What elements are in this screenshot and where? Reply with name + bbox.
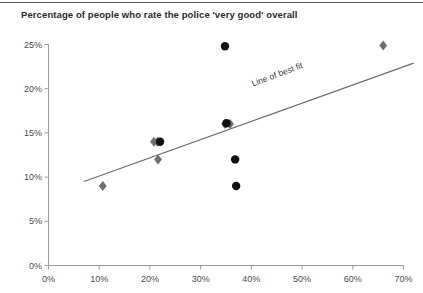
y-axis-tick-label: 5% <box>8 216 42 226</box>
trendline-layer <box>84 63 414 181</box>
line-of-best-fit <box>84 63 414 181</box>
chart-container: Percentage of people who rate the police… <box>0 0 423 293</box>
x-axis-tick-label: 20% <box>141 274 159 284</box>
axes-layer <box>45 45 404 270</box>
data-point-diamond <box>99 181 107 191</box>
y-axis-tick-label: 15% <box>8 128 42 138</box>
y-axis-tick-label: 10% <box>8 172 42 182</box>
data-point-circle <box>231 155 239 163</box>
x-axis-tick-label: 60% <box>344 274 362 284</box>
y-axis-tick-label: 20% <box>8 84 42 94</box>
data-point-circle <box>232 182 240 190</box>
x-axis-tick-label: 10% <box>90 274 108 284</box>
data-point-diamond <box>379 40 387 50</box>
data-point-circle <box>156 138 164 146</box>
x-axis-tick-label: 0% <box>42 274 55 284</box>
data-point-circle <box>221 42 229 50</box>
x-axis-tick-label: 70% <box>394 274 412 284</box>
plot-area <box>0 0 423 293</box>
data-points-layer <box>99 40 387 191</box>
y-axis-tick-label: 25% <box>8 40 42 50</box>
data-point-circle <box>222 119 230 127</box>
x-axis-tick-label: 30% <box>192 274 210 284</box>
x-axis-tick-label: 50% <box>293 274 311 284</box>
y-axis-tick-label: 0% <box>8 261 42 271</box>
x-axis-tick-label: 40% <box>242 274 260 284</box>
